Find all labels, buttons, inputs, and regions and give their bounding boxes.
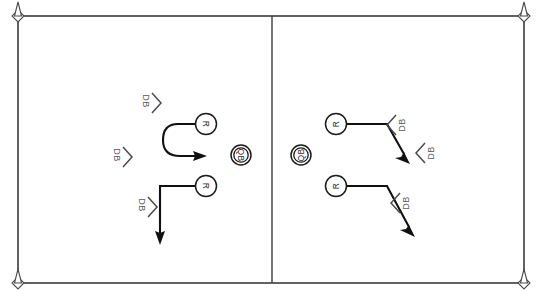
field-border — [18, 16, 524, 283]
defender-marker[interactable]: DB — [416, 143, 436, 163]
player-receiver[interactable]: R — [196, 114, 217, 135]
defender-label: DB — [137, 198, 147, 211]
pylon-bottom-right — [518, 269, 530, 289]
route-out-and-go-down — [155, 186, 196, 245]
defender-label: DB — [397, 118, 407, 131]
player-label: R — [331, 183, 341, 189]
defender-label: DB — [141, 94, 151, 107]
left-play: R R QB DB DB DB — [112, 93, 251, 245]
defender-marker[interactable]: DB — [387, 115, 407, 135]
player-quarterback[interactable]: QB — [231, 145, 251, 165]
player-label: R — [331, 121, 341, 127]
player-receiver[interactable]: R — [326, 114, 347, 135]
defender-label: DB — [112, 148, 122, 161]
defender-marker[interactable]: DB — [137, 197, 157, 217]
pylon-top-right — [518, 2, 530, 22]
play-diagram: R R QB DB DB DB — [0, 0, 543, 300]
pylon-top-left — [12, 2, 24, 22]
player-label: R — [201, 121, 211, 127]
defender-label: DB — [401, 196, 411, 209]
player-label: QB — [236, 149, 246, 162]
defender-label: DB — [426, 146, 436, 159]
defender-marker[interactable]: DB — [391, 193, 411, 213]
pylon-bottom-left — [12, 269, 24, 289]
player-label: R — [201, 183, 211, 189]
route-out-and-break-down — [346, 186, 415, 237]
right-play: R R QB DB DB DB — [291, 114, 436, 238]
defender-marker[interactable]: DB — [112, 147, 132, 167]
player-label: QB — [296, 149, 306, 162]
defender-marker[interactable]: DB — [141, 93, 161, 113]
player-receiver[interactable]: R — [196, 176, 217, 197]
player-quarterback[interactable]: QB — [291, 145, 311, 165]
player-receiver[interactable]: R — [326, 176, 347, 197]
